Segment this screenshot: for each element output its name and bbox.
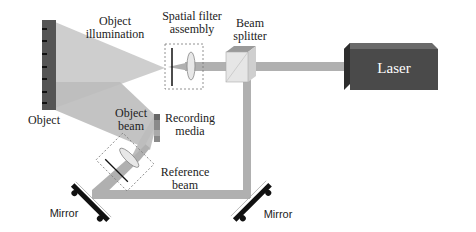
label-object-beam: Object beam <box>110 107 152 133</box>
label-laser: Laser <box>350 60 438 77</box>
label-mirror-right: Mirror <box>258 208 298 221</box>
label-line: media <box>160 125 220 138</box>
label-reference-beam: Reference beam <box>155 166 215 192</box>
label-line: assembly <box>152 23 232 36</box>
holography-diagram: Object illumination Spatial filter assem… <box>0 0 476 232</box>
reference-beam-vertical <box>243 80 251 198</box>
object-plate <box>42 20 56 110</box>
label-line: splitter <box>225 30 275 43</box>
label-spatial-filter: Spatial filter assembly <box>152 10 232 36</box>
label-object-illumination: Object illumination <box>80 15 150 41</box>
label-line: illumination <box>80 28 150 41</box>
beam-splitter-side <box>248 46 256 82</box>
label-line: beam <box>110 120 152 133</box>
laser-top <box>344 43 438 49</box>
label-object: Object <box>22 114 66 127</box>
label-line: beam <box>155 179 215 192</box>
label-mirror-left: Mirror <box>44 207 84 220</box>
lens <box>187 52 195 80</box>
label-recording-media: Recording media <box>160 112 220 138</box>
label-beam-splitter: Beam splitter <box>225 17 275 43</box>
